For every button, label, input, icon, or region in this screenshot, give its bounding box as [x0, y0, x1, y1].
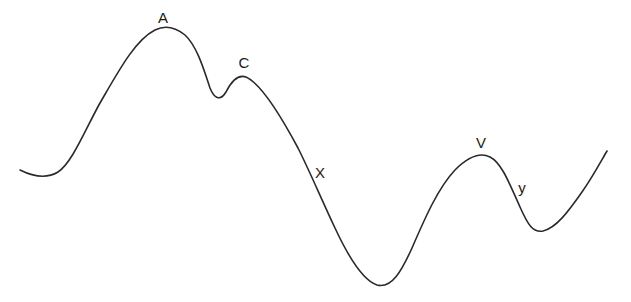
curve-diagram: [0, 0, 631, 302]
point-label-c: C: [239, 55, 250, 70]
point-label-a: A: [158, 10, 168, 25]
point-label-y: y: [518, 180, 526, 195]
point-label-v: V: [476, 135, 486, 150]
point-label-x: X: [315, 165, 325, 180]
wave-curve: [20, 27, 607, 285]
